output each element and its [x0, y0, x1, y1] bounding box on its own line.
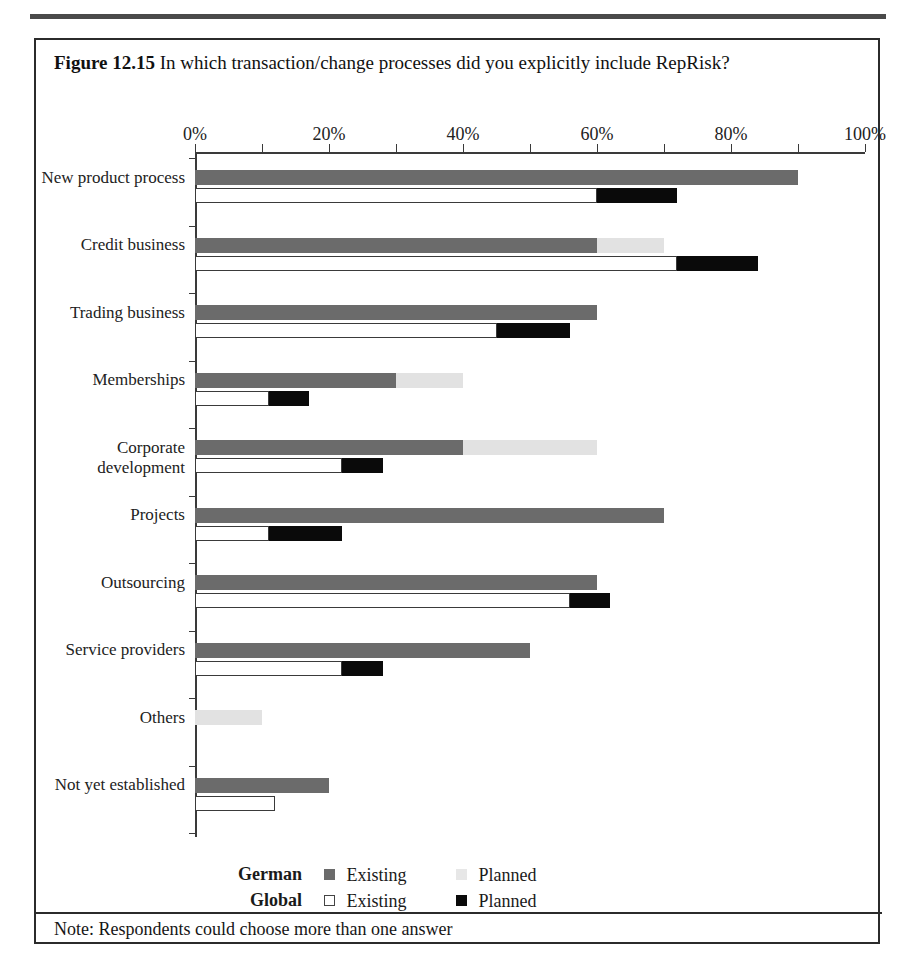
chart-plot-area: 0%20%40%60%80%100% New product processCr…	[36, 40, 882, 946]
x-axis-tick	[530, 144, 531, 152]
bar-global-planned	[269, 391, 309, 406]
chart-legend: German Existing Planned Global Existing	[36, 862, 882, 914]
legend-row-global: Global Existing Planned	[36, 888, 882, 914]
figure-box: Figure 12.15 In which transaction/change…	[34, 38, 880, 944]
y-axis-tick	[189, 293, 196, 294]
x-axis-tick	[195, 144, 196, 152]
bar-global-planned	[677, 256, 757, 271]
legend-item-global-planned: Planned	[456, 890, 537, 912]
light-gray-square-icon	[456, 869, 467, 880]
bar-global-existing	[195, 391, 269, 406]
x-tick-label: 20%	[313, 124, 346, 145]
figure-page: Figure 12.15 In which transaction/change…	[0, 0, 913, 973]
bar-german-planned	[396, 373, 463, 388]
y-axis-tick	[189, 428, 196, 429]
bar-global-existing	[195, 593, 570, 608]
bar-german-existing	[195, 305, 597, 320]
x-axis-tick	[262, 144, 263, 152]
y-axis-tick	[189, 361, 196, 362]
legend-group-global: Global	[182, 890, 302, 911]
bar-german-existing	[195, 643, 530, 658]
black-square-icon	[456, 895, 467, 906]
legend-label-german-existing: Existing	[347, 865, 407, 885]
bar-german-existing	[195, 778, 329, 793]
bar-german-planned	[597, 238, 664, 253]
legend-row-german: German Existing Planned	[36, 862, 882, 888]
category-label: Outsourcing	[35, 573, 185, 593]
x-axis-tick	[463, 144, 464, 152]
y-axis-tick	[189, 563, 196, 564]
bar-global-existing	[195, 323, 497, 338]
bar-global-planned	[269, 526, 343, 541]
bar-global-existing	[195, 661, 342, 676]
x-axis-tick	[865, 144, 866, 152]
bar-global-planned	[597, 188, 677, 203]
category-label: New product process	[35, 168, 185, 188]
y-axis-tick	[189, 226, 196, 227]
x-tick-label: 0%	[183, 124, 207, 145]
legend-label-global-existing: Existing	[347, 891, 407, 911]
category-label: Trading business	[35, 303, 185, 323]
bar-global-existing	[195, 526, 269, 541]
figure-note: Note: Respondents could choose more than…	[54, 919, 452, 940]
bar-german-existing	[195, 238, 597, 253]
y-axis-tick	[189, 631, 196, 632]
legend-item-german-existing: Existing	[324, 864, 407, 886]
bar-global-planned	[342, 458, 382, 473]
category-label: Not yet established	[35, 775, 185, 795]
category-label: Credit business	[35, 235, 185, 255]
y-axis-tick	[189, 698, 196, 699]
x-axis-tick-labels: 0%20%40%60%80%100%	[36, 124, 882, 146]
bar-global-existing	[195, 188, 597, 203]
x-axis-tick	[731, 144, 732, 152]
bar-global-planned	[570, 593, 610, 608]
y-axis-tick	[189, 766, 196, 767]
x-axis-line	[195, 152, 865, 154]
bar-global-planned	[497, 323, 571, 338]
note-divider	[36, 912, 882, 914]
y-axis-tick	[189, 833, 196, 834]
x-tick-label: 100%	[844, 124, 886, 145]
legend-label-global-planned: Planned	[479, 891, 537, 911]
x-tick-label: 60%	[581, 124, 614, 145]
bar-german-planned	[463, 440, 597, 455]
y-axis-tick	[189, 158, 196, 159]
category-label: Memberships	[35, 370, 185, 390]
bar-global-existing	[195, 256, 677, 271]
white-square-icon	[324, 895, 335, 906]
legend-group-german: German	[182, 864, 302, 885]
legend-label-german-planned: Planned	[479, 865, 537, 885]
bar-global-existing	[195, 796, 275, 811]
bar-german-existing	[195, 508, 664, 523]
x-axis-tick	[597, 144, 598, 152]
bar-german-existing	[195, 575, 597, 590]
dark-gray-square-icon	[324, 869, 335, 880]
x-axis-tick	[329, 144, 330, 152]
x-tick-label: 40%	[447, 124, 480, 145]
y-axis-tick	[189, 496, 196, 497]
page-top-rule	[30, 14, 886, 19]
category-label: Projects	[35, 505, 185, 525]
category-label: Corporate development	[35, 438, 185, 478]
bar-german-planned	[195, 710, 262, 725]
legend-item-global-existing: Existing	[324, 890, 407, 912]
bar-german-existing	[195, 440, 463, 455]
legend-item-german-planned: Planned	[456, 864, 537, 886]
x-tick-label: 80%	[715, 124, 748, 145]
bar-german-existing	[195, 170, 798, 185]
bar-global-planned	[342, 661, 382, 676]
x-axis-tick	[664, 144, 665, 152]
bar-global-existing	[195, 458, 342, 473]
category-label: Service providers	[35, 640, 185, 660]
category-label: Others	[35, 708, 185, 728]
x-axis-tick	[798, 144, 799, 152]
x-axis-tick	[396, 144, 397, 152]
bar-german-existing	[195, 373, 396, 388]
